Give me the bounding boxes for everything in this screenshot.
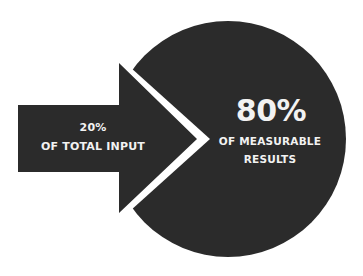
output-label-line2: RESULTS bbox=[205, 153, 335, 165]
input-percent: 20% bbox=[18, 121, 168, 134]
output-label-line1: OF MEASURABLE bbox=[205, 135, 335, 147]
output-percent: 80% bbox=[210, 93, 332, 128]
input-label: OF TOTAL INPUT bbox=[18, 140, 168, 153]
pareto-diagram: 20% OF TOTAL INPUT 80% OF MEASURABLE RES… bbox=[0, 0, 363, 276]
